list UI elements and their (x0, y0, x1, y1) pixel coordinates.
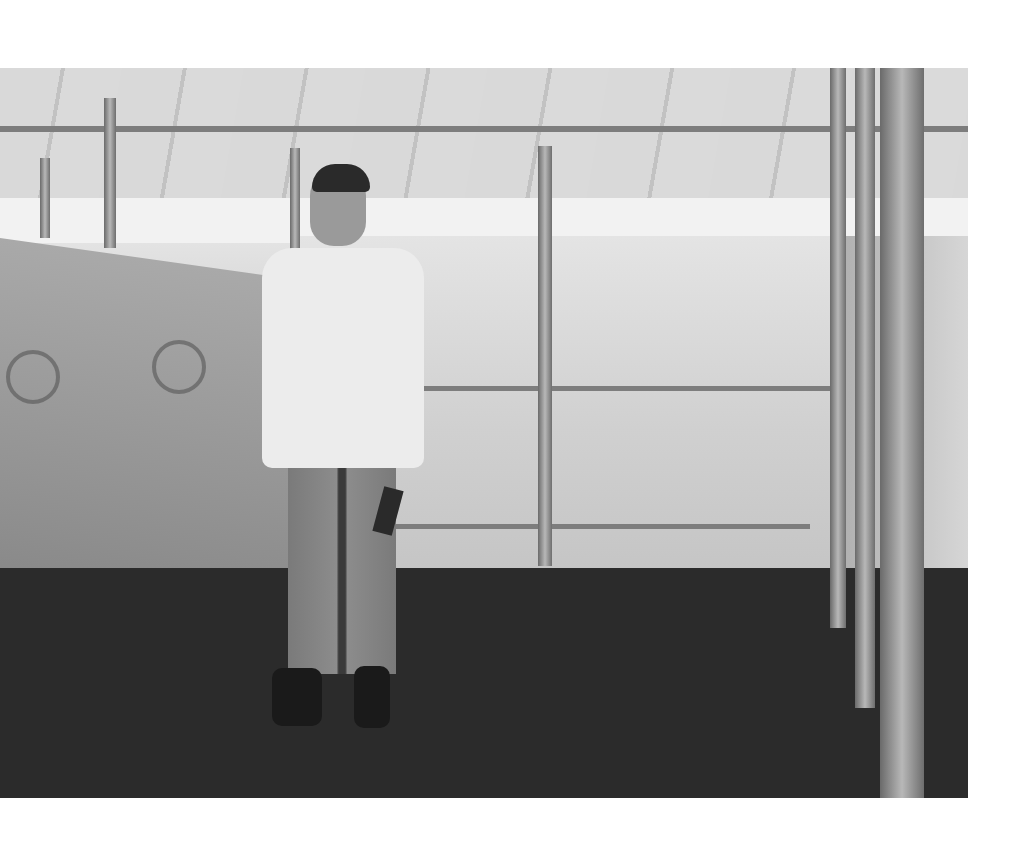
bamboo-pole (880, 68, 924, 798)
person-white-shirt (262, 248, 424, 468)
wall-beam (420, 386, 840, 391)
bamboo-pole (104, 98, 116, 248)
bamboo-pole (830, 68, 846, 628)
bamboo-pole (290, 148, 300, 258)
tarp-roof (0, 68, 968, 204)
bamboo-pole (40, 158, 50, 238)
unhcr-logo (6, 350, 60, 404)
photograph (0, 68, 968, 798)
bamboo-pole (855, 68, 875, 708)
person-shoe (272, 668, 322, 726)
dark-floor (0, 568, 968, 798)
wall-beam (330, 524, 810, 529)
person-shoe (354, 666, 390, 728)
bamboo-pole (538, 146, 552, 566)
roof-beam (0, 126, 968, 132)
unhcr-logo (152, 340, 206, 394)
person-hair (312, 164, 370, 192)
person-jeans (288, 464, 396, 674)
